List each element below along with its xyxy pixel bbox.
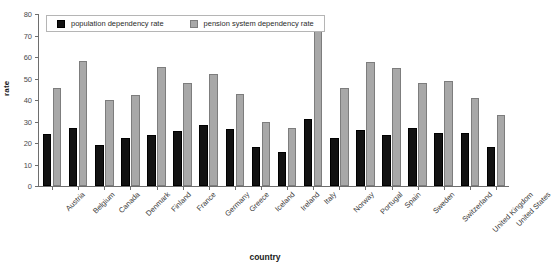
bar-group xyxy=(487,14,506,186)
bar-group xyxy=(382,14,401,186)
y-tick-mark xyxy=(35,100,39,101)
bar-group xyxy=(147,14,166,186)
y-tick-label: 70 xyxy=(4,31,38,40)
bar-group xyxy=(121,14,140,186)
legend-swatch-population-icon xyxy=(57,20,65,28)
x-tick-label: Sweden xyxy=(431,190,457,216)
x-axis-title: country xyxy=(0,252,530,262)
y-tick-mark xyxy=(35,79,39,80)
bar-group xyxy=(304,14,323,186)
x-tick-label: Canada xyxy=(117,190,142,215)
x-tick-mark xyxy=(183,186,184,190)
bar-population xyxy=(330,138,339,186)
y-tick-mark xyxy=(35,186,39,187)
x-tick-label: Norway xyxy=(352,190,376,214)
bar-population xyxy=(356,130,365,186)
bar-group xyxy=(226,14,245,186)
bar-group xyxy=(95,14,114,186)
bar-population xyxy=(121,138,130,186)
x-tick-label: Finland xyxy=(169,190,193,214)
x-axis-line xyxy=(38,186,509,187)
bar-pension xyxy=(418,83,427,186)
legend-item-population: population dependency rate xyxy=(57,19,164,28)
x-tick-mark xyxy=(104,186,105,190)
legend-swatch-pension-icon xyxy=(190,20,198,28)
x-tick-mark xyxy=(444,186,445,190)
y-tick-label: 30 xyxy=(4,117,38,126)
x-tick-label: Austria xyxy=(64,190,87,213)
x-tick-label: Switzerland xyxy=(460,190,494,224)
bar-group xyxy=(434,14,453,186)
bar-population xyxy=(304,119,313,186)
x-tick-label: Portugal xyxy=(379,190,405,216)
bar-population xyxy=(199,125,208,186)
bar-group xyxy=(461,14,480,186)
y-tick-label: 80 xyxy=(4,10,38,19)
y-tick-label: 40 xyxy=(4,96,38,105)
x-tick-mark xyxy=(209,186,210,190)
bar-population xyxy=(69,128,78,186)
x-tick-label: Greece xyxy=(247,190,271,214)
x-tick-mark xyxy=(235,186,236,190)
bar-pension xyxy=(497,115,506,186)
bar-population xyxy=(95,145,104,186)
legend-item-pension: pension system dependency rate xyxy=(190,19,314,28)
bar-population xyxy=(43,134,52,186)
x-tick-mark xyxy=(365,186,366,190)
y-tick-mark xyxy=(35,143,39,144)
y-tick-label: 10 xyxy=(4,160,38,169)
bar-group xyxy=(278,14,297,186)
x-tick-mark xyxy=(130,186,131,190)
bar-population xyxy=(461,133,470,186)
bar-pension xyxy=(392,68,401,186)
x-tick-mark xyxy=(287,186,288,190)
bar-population xyxy=(487,147,496,186)
y-tick-label: 60 xyxy=(4,53,38,62)
bar-pension xyxy=(471,98,480,186)
y-tick-mark xyxy=(35,57,39,58)
y-tick-mark xyxy=(35,122,39,123)
y-tick-mark xyxy=(35,14,39,15)
plot-area: 01020304050607080 xyxy=(38,14,508,186)
x-tick-label: Denmark xyxy=(144,190,172,218)
bar-pension xyxy=(209,74,218,186)
bar-population xyxy=(173,131,182,186)
bar-population xyxy=(147,135,156,186)
bar-pension xyxy=(366,62,375,186)
x-tick-label: Iceland xyxy=(273,190,296,213)
legend-label-population: population dependency rate xyxy=(71,19,164,28)
bar-pension xyxy=(53,88,62,186)
bar-group xyxy=(69,14,88,186)
y-tick-label: 0 xyxy=(4,182,38,191)
bar-population xyxy=(252,147,261,186)
y-tick-mark xyxy=(35,165,39,166)
y-tick-mark xyxy=(35,36,39,37)
y-tick-label: 20 xyxy=(4,139,38,148)
bar-group xyxy=(199,14,218,186)
x-tick-label: France xyxy=(194,190,217,213)
bar-pension xyxy=(105,100,114,186)
bar-pension xyxy=(288,128,297,186)
x-tick-mark xyxy=(157,186,158,190)
x-tick-mark xyxy=(496,186,497,190)
bar-pension xyxy=(157,67,166,186)
bar-group xyxy=(43,14,62,186)
x-tick-label: Germany xyxy=(223,190,251,218)
bar-population xyxy=(434,133,443,186)
bar-pension xyxy=(183,83,192,186)
x-tick-label: Italy xyxy=(322,190,338,206)
bar-pension xyxy=(236,94,245,186)
bar-population xyxy=(226,129,235,186)
bar-group xyxy=(330,14,349,186)
bar-group xyxy=(356,14,375,186)
legend-label-pension: pension system dependency rate xyxy=(204,19,314,28)
x-tick-mark xyxy=(52,186,53,190)
bar-group xyxy=(408,14,427,186)
bar-population xyxy=(382,135,391,186)
bar-pension xyxy=(340,88,349,186)
x-tick-label: Spain xyxy=(402,190,422,210)
x-tick-label: Belgium xyxy=(91,190,117,216)
x-tick-mark xyxy=(418,186,419,190)
bar-group xyxy=(173,14,192,186)
